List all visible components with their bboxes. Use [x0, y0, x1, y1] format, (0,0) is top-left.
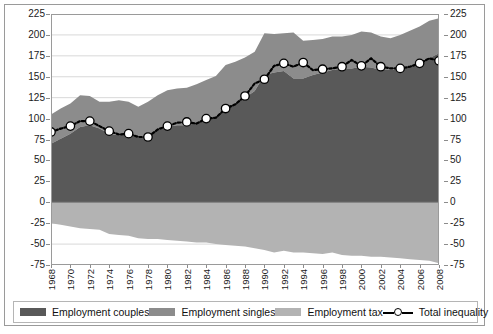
y-axis-left-tick-mark [46, 98, 50, 99]
x-axis-tick-mark [381, 265, 382, 268]
x-axis-tick-mark [439, 265, 440, 268]
data-point-total-inequality [241, 92, 249, 100]
x-axis-tick-label: 1970 [65, 269, 76, 290]
data-point-total-inequality [357, 62, 365, 70]
y-axis-right-tick-mark [444, 202, 448, 203]
y-axis-left-tick-mark [46, 244, 50, 245]
chart-svg [51, 14, 439, 265]
y-axis-right-tick-mark [444, 119, 448, 120]
x-axis-tick-mark [264, 265, 265, 268]
y-axis-left-tick-label: 75 [13, 135, 45, 145]
y-axis-left-tick-label: 150 [13, 72, 45, 82]
x-axis-tick-label: 1998 [337, 269, 348, 290]
y-axis-right-tick-mark [444, 77, 448, 78]
x-axis-tick-label: 1976 [124, 269, 135, 290]
y-axis-right-tick-mark [444, 140, 448, 141]
y-axis-right-tick-label: 25 [450, 176, 461, 186]
y-axis-right-tick-mark [444, 160, 448, 161]
y-axis-right-tick-label: 200 [450, 30, 467, 40]
x-axis-tick-mark [51, 265, 52, 268]
legend-item[interactable]: Employment tax [275, 306, 382, 318]
legend-item-label: Employment tax [307, 306, 382, 318]
y-axis-right-tick-mark [444, 265, 448, 266]
x-axis-tick-mark [323, 265, 324, 268]
data-point-total-inequality [260, 75, 268, 83]
y-axis-right-tick-mark [444, 244, 448, 245]
y-axis-left-tick-label: 175 [13, 51, 45, 61]
data-point-total-inequality [338, 63, 346, 71]
y-axis-left-tick-mark [46, 56, 50, 57]
x-axis-tick-mark [303, 265, 304, 268]
x-axis-tick-label: 1996 [318, 269, 329, 290]
x-axis-tick-mark [245, 265, 246, 268]
x-axis-tick-label: 2000 [356, 269, 367, 290]
x-axis-tick-mark [206, 265, 207, 268]
y-axis-left: 2252001751501251007550250-25-50-75 [9, 14, 45, 265]
legend-item[interactable]: Employment couples [20, 306, 149, 318]
data-point-total-inequality [144, 133, 152, 141]
y-axis-right-tick-label: 0 [450, 197, 456, 207]
x-axis-tick-mark [187, 265, 188, 268]
legend-item-label: Employment singles [181, 306, 275, 318]
data-point-total-inequality [377, 63, 385, 71]
x-axis-tick-mark [129, 265, 130, 268]
y-axis-right-tick-label: 175 [450, 51, 467, 61]
y-axis-left-tick-label: 125 [13, 93, 45, 103]
y-axis-left-tick-label: 50 [13, 155, 45, 165]
y-axis-left-tick-mark [46, 181, 50, 182]
y-axis-right-tick-mark [444, 223, 448, 224]
y-axis-left-tick-mark [46, 35, 50, 36]
x-axis-tick-mark [148, 265, 149, 268]
data-point-total-inequality [318, 65, 326, 73]
x-axis-tick-label: 1968 [46, 269, 57, 290]
legend-item[interactable]: Total inequality [383, 306, 488, 318]
y-axis-right-tick-label: 50 [450, 155, 461, 165]
x-axis-tick-mark [226, 265, 227, 268]
plot-area [51, 14, 439, 265]
y-axis-left-tick-mark [46, 265, 50, 266]
x-axis-tick-label: 1974 [104, 269, 115, 290]
x-axis-tick-label: 2008 [434, 269, 445, 290]
y-axis-right-tick-label: 100 [450, 114, 467, 124]
legend-line-marker-icon [383, 308, 413, 317]
legend-color-swatch-icon [149, 308, 175, 316]
y-axis-right: 2252001751501251007550250-25-50-75 [443, 14, 483, 265]
data-point-total-inequality [163, 122, 171, 130]
data-point-total-inequality [124, 129, 132, 137]
data-point-total-inequality [183, 118, 191, 126]
y-axis-right-tick-label: 225 [450, 9, 467, 19]
data-point-total-inequality [221, 104, 229, 112]
y-axis-right-tick-label: 150 [450, 72, 467, 82]
x-axis-tick-label: 1986 [221, 269, 232, 290]
legend-item[interactable]: Employment singles [149, 306, 275, 318]
x-axis-tick-label: 1982 [182, 269, 193, 290]
data-point-total-inequality [66, 122, 74, 130]
x-axis-tick-label: 1992 [279, 269, 290, 290]
x-axis-tick-label: 2004 [395, 269, 406, 290]
x-axis-tick-label: 1980 [162, 269, 173, 290]
y-axis-right-tick-mark [444, 181, 448, 182]
data-point-total-inequality [86, 117, 94, 125]
y-axis-left-tick-label: 0 [13, 197, 45, 207]
y-axis-right-tick-label: 75 [450, 135, 461, 145]
data-point-total-inequality [105, 127, 113, 135]
y-axis-right-tick-mark [444, 35, 448, 36]
x-axis-tick-label: 1988 [240, 269, 251, 290]
legend-color-swatch-icon [275, 308, 301, 316]
y-axis-left-tick-mark [46, 202, 50, 203]
y-axis-left-tick-mark [46, 160, 50, 161]
y-axis-left-tick-label: -50 [13, 239, 45, 249]
x-axis-tick-label: 1984 [201, 269, 212, 290]
y-axis-right-tick-label: -50 [450, 239, 464, 249]
x-axis-tick-mark [90, 265, 91, 268]
x-axis-tick-mark [167, 265, 168, 268]
x-axis-tick-mark [284, 265, 285, 268]
data-point-total-inequality [396, 64, 404, 72]
y-axis-right-tick-mark [444, 98, 448, 99]
x-axis-tick-mark [342, 265, 343, 268]
y-axis-left-tick-mark [46, 14, 50, 15]
x-axis-tick-label: 1990 [259, 269, 270, 290]
y-axis-left-tick-mark [46, 223, 50, 224]
x-axis-tick-label: 1978 [143, 269, 154, 290]
legend-item-label: Employment couples [52, 306, 149, 318]
